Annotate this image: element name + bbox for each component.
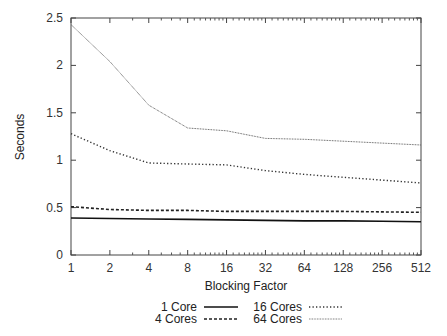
x-tick-label: 8	[184, 261, 191, 275]
x-tick-label: 2	[107, 261, 114, 275]
x-tick-label: 64	[298, 261, 312, 275]
line-chart: 00.511.522.5 1248163264128256512 Seconds…	[0, 0, 447, 336]
legend-item-64-cores: 64 Cores	[253, 312, 342, 326]
series-4-cores	[71, 207, 421, 213]
series-64-cores	[71, 25, 421, 145]
legend-label: 64 Cores	[253, 312, 302, 326]
legend-label: 4 Cores	[155, 312, 197, 326]
series-layer	[71, 25, 421, 222]
x-tick-label: 512	[411, 261, 431, 275]
series-1-core	[71, 218, 421, 222]
x-tick-label: 1	[68, 261, 75, 275]
x-tick-label: 16	[220, 261, 234, 275]
x-axis-title: Blocking Factor	[205, 279, 288, 293]
y-tick-label: 1	[56, 153, 63, 167]
series-16-cores	[71, 134, 421, 183]
y-tick-label: 2	[56, 58, 63, 72]
x-axis: 1248163264128256512	[68, 18, 432, 275]
y-tick-label: 1.5	[46, 106, 63, 120]
y-tick-label: 2.5	[46, 11, 63, 25]
x-tick-label: 256	[372, 261, 392, 275]
y-axis: 00.511.522.5	[46, 11, 421, 262]
legend: 1 Core 4 Cores 16 Cores 64 Cores	[155, 300, 342, 326]
legend-item-4-cores: 4 Cores	[155, 312, 238, 326]
y-tick-label: 0	[56, 248, 63, 262]
y-axis-title: Seconds	[13, 114, 27, 161]
x-tick-label: 4	[145, 261, 152, 275]
x-tick-label: 32	[259, 261, 273, 275]
y-tick-label: 0.5	[46, 201, 63, 215]
x-tick-label: 128	[333, 261, 353, 275]
